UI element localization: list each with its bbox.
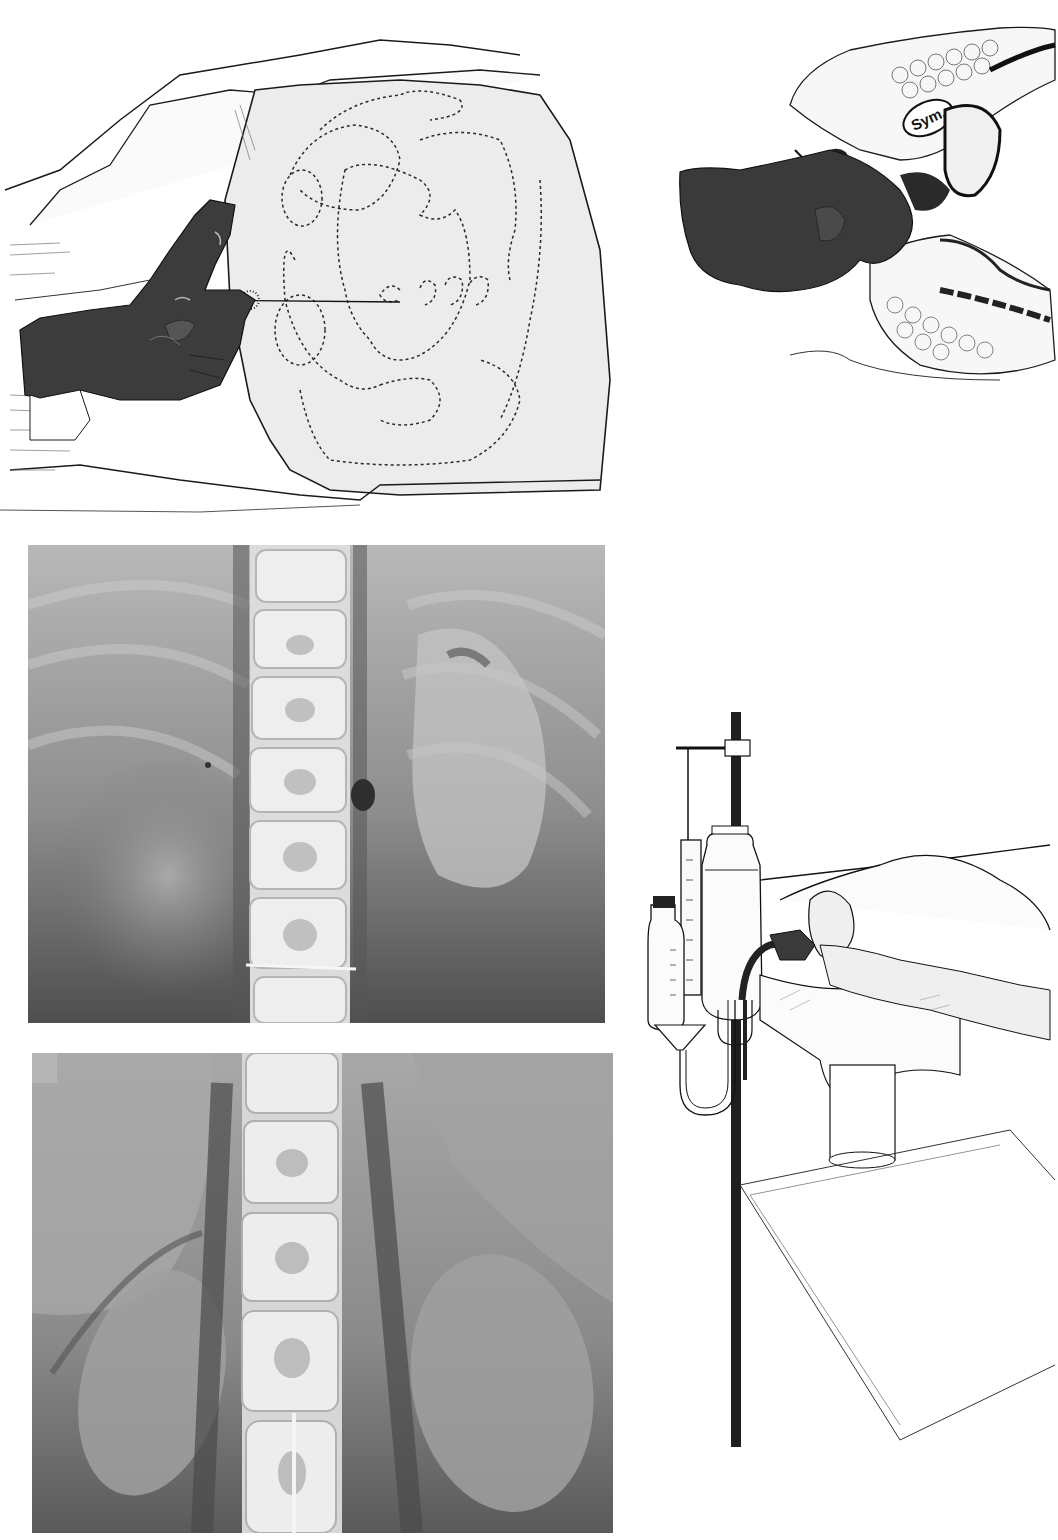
figure-irrigation-apparatus: [625, 705, 1058, 1465]
clipped-header-text: [4, 0, 244, 4]
apparatus-illustration: [625, 705, 1058, 1465]
figure-xray-2: [32, 1053, 613, 1533]
figure-xray-1: [28, 545, 605, 1023]
figure-external-puncture: [0, 28, 620, 518]
puncture-illustration: [0, 28, 620, 518]
figure-sagittal-pelvis: Sym.: [665, 20, 1058, 400]
radiograph-2-image: [32, 1053, 613, 1533]
radiograph-1-image: [28, 545, 605, 1023]
sagittal-section-illustration: Sym.: [665, 20, 1058, 400]
